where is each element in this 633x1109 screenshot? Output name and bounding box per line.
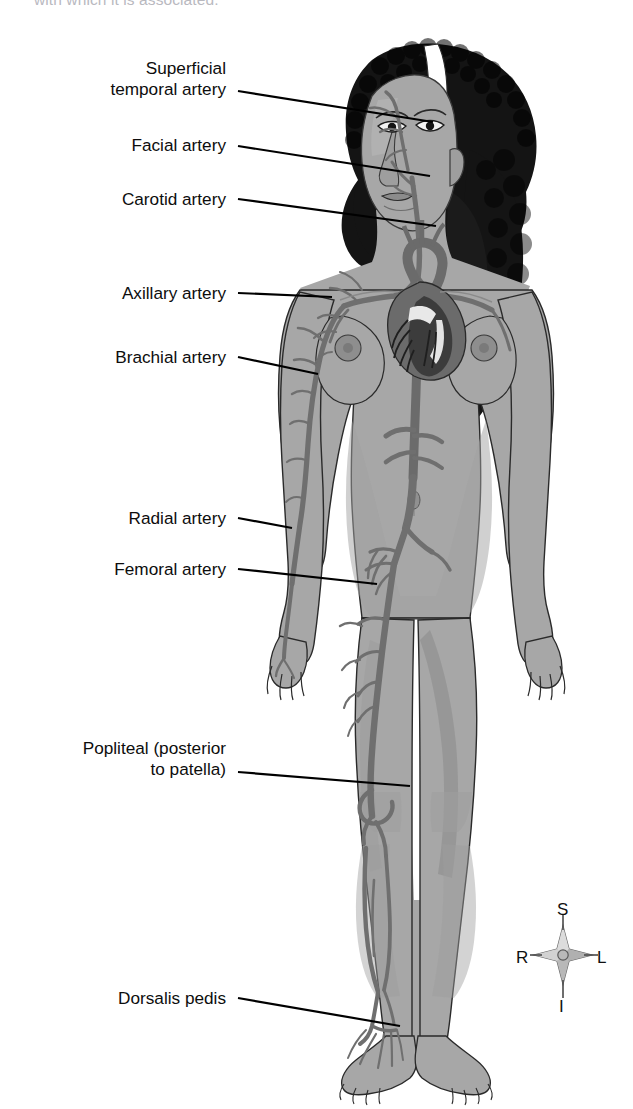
label-axillary-artery: Axillary artery [6, 283, 226, 304]
label-superficial-temporal-artery: Superficial temporal artery [6, 58, 226, 100]
leader-line-facial-artery [238, 146, 430, 176]
label-radial-artery: Radial artery [6, 508, 226, 529]
label-facial-artery: Facial artery [6, 135, 226, 156]
leader-line-carotid-artery [238, 199, 436, 226]
label-femoral-artery: Femoral artery [6, 559, 226, 580]
compass-label-inferior: I [559, 997, 564, 1017]
anatomical-orientation-compass: S R L I [508, 900, 618, 1030]
diagram-page: with which it is associated. [0, 0, 633, 1109]
compass-label-superior: S [557, 900, 568, 920]
label-carotid-artery: Carotid artery [6, 189, 226, 210]
leader-line-dorsalis-pedis [238, 998, 400, 1026]
compass-label-left: L [597, 948, 606, 968]
leader-line-brachial-artery [238, 357, 318, 374]
label-dorsalis-pedis: Dorsalis pedis [6, 988, 226, 1009]
compass-label-right: R [516, 948, 528, 968]
leader-line-superficial-temporal-artery [238, 91, 433, 122]
leader-line-radial-artery [238, 518, 292, 528]
label-popliteal-artery: Popliteal (posterior to patella) [6, 738, 226, 780]
leader-line-popliteal-artery [238, 772, 410, 786]
label-brachial-artery: Brachial artery [6, 347, 226, 368]
leader-line-axillary-artery [238, 293, 332, 297]
leader-line-femoral-artery [238, 569, 377, 584]
